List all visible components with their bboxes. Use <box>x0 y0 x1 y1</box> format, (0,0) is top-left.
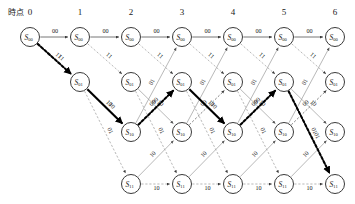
trellis-node[interactable]: S01 <box>224 73 243 92</box>
trellis-node[interactable]: S00 <box>71 28 90 47</box>
survivor-path-layer <box>38 44 330 173</box>
trellis-node[interactable]: S01 <box>326 73 345 92</box>
trellis-node[interactable]: S11 <box>224 175 243 194</box>
trellis-node[interactable]: S11 <box>275 175 294 194</box>
edge-label: 01 <box>106 126 115 135</box>
trellis-node[interactable]: S10 <box>122 123 141 142</box>
column-header: 2 <box>129 7 134 17</box>
column-header: 1 <box>78 7 83 17</box>
edge-label: 10 <box>250 149 259 158</box>
edge-label: 01 <box>300 77 309 86</box>
trellis-node[interactable]: S01 <box>275 73 294 92</box>
edge-label: 01 <box>198 77 207 86</box>
time-axis-label: 時点 <box>8 8 24 17</box>
trellis-node[interactable]: S00 <box>275 28 294 47</box>
trellis-node[interactable]: S00 <box>122 28 141 47</box>
column-header: 6 <box>333 7 338 17</box>
edge-label: 11 <box>207 51 216 60</box>
trellis-node[interactable]: S10 <box>326 123 345 142</box>
edge-label: 11 <box>258 51 267 60</box>
edge-label: 01 <box>249 77 258 86</box>
edge-label: 10 <box>153 184 159 191</box>
edge-label: 00 <box>153 27 159 34</box>
edge-label: 11 <box>105 51 114 60</box>
column-header: 5 <box>282 7 287 17</box>
trellis-node[interactable]: S00 <box>224 28 243 47</box>
edge-label: 00 <box>255 27 261 34</box>
column-headers: 時点0123456 <box>8 7 338 17</box>
trellis-node[interactable]: S11 <box>122 175 141 194</box>
edge-label: 10 <box>309 98 318 107</box>
trellis-node[interactable]: S00 <box>326 28 345 47</box>
trellis-diagram: 0011001110010011100101001010001110010100… <box>0 0 355 204</box>
column-header: 3 <box>180 7 185 17</box>
trellis-node[interactable]: S10 <box>173 123 192 142</box>
edge-label: 10 <box>204 184 210 191</box>
trellis-node[interactable]: S01 <box>71 73 90 92</box>
trellis-node[interactable]: S10 <box>275 123 294 142</box>
trellis-node[interactable]: S10 <box>224 123 243 142</box>
trellis-node[interactable]: S11 <box>326 175 345 194</box>
edge-label: 10 <box>301 149 310 158</box>
edge-label: 00 <box>306 27 312 34</box>
edge-label: 10 <box>255 184 261 191</box>
edge-label: 01 <box>147 77 156 86</box>
trellis-node[interactable]: S01 <box>122 73 141 92</box>
edge-label: 00 <box>52 27 58 34</box>
trellis-node[interactable]: S00 <box>173 28 192 47</box>
edge-label: 00 <box>204 27 210 34</box>
edges-layer <box>38 37 330 184</box>
trellis-node[interactable]: S01 <box>173 73 192 92</box>
edge-label: 11 <box>156 51 165 60</box>
edge-label: 00 <box>102 27 108 34</box>
edge-label: 01 <box>259 126 268 135</box>
edge-label: 01 <box>208 126 217 135</box>
trellis-node[interactable]: S00 <box>21 28 40 47</box>
edge-label: 10 <box>199 149 208 158</box>
edge-label: 11 <box>309 51 318 60</box>
edge-label: 01 <box>157 126 166 135</box>
column-header: 4 <box>231 7 236 17</box>
trellis-node[interactable]: S11 <box>173 175 192 194</box>
edge-label: 10 <box>148 149 157 158</box>
edge-labels-layer: 0011001110010011100101001010001110010100… <box>52 27 319 191</box>
column-header: 0 <box>28 7 33 17</box>
edge-label: 10 <box>306 184 312 191</box>
